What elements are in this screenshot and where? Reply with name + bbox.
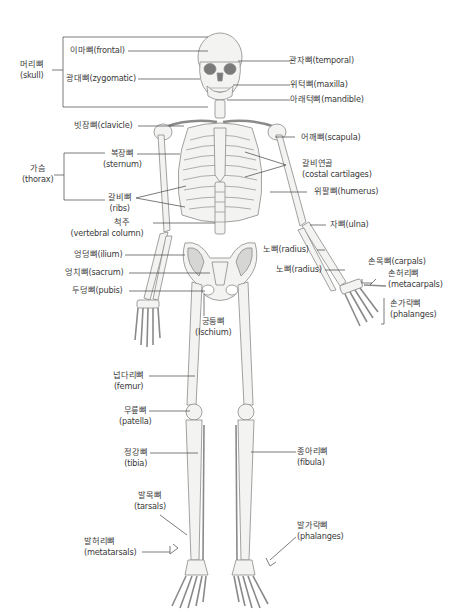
label-patella: 무릎뼈 (patella) <box>119 405 152 427</box>
label-tarsals: 발목뼈 (tarsals) <box>134 490 166 512</box>
label-ko: 손가락뼈 <box>390 298 437 309</box>
label-en: (Ischium) <box>195 327 231 338</box>
label-sacrum: 엉치뼈(sacrum) <box>65 267 124 278</box>
label-en: (phalanges) <box>390 309 437 320</box>
label-en: (femur) <box>113 381 144 392</box>
label-costal-cartilages: 갈비연골 (costal cartilages) <box>302 158 372 180</box>
label-ko: 궁둥뼈 <box>195 316 231 327</box>
label-en: (metatarsals) <box>84 547 136 558</box>
label-femur: 넙다리뼈 (femur) <box>113 370 144 392</box>
label-en: (tarsals) <box>134 501 166 512</box>
label-en: (ribs) <box>108 203 131 214</box>
label-ischium: 궁둥뼈 (Ischium) <box>195 316 231 338</box>
label-ulna: 자뼈(ulna) <box>330 219 368 230</box>
label-humerus: 위팔뼈(humerus) <box>314 186 378 197</box>
label-ko: 넙다리뼈 <box>113 370 144 381</box>
label-ko: 발허리뼈 <box>84 536 136 547</box>
label-ko: 정강뼈 <box>124 447 147 458</box>
label-ilium: 엉덩뼈(ilium) <box>74 249 122 260</box>
label-scapula: 어깨뼈(scapula) <box>301 132 360 143</box>
label-en: (thorax) <box>22 174 53 185</box>
label-en: (patella) <box>119 416 152 427</box>
label-clavicle: 빗장뼈(clavicle) <box>74 120 133 131</box>
label-sternum: 복장뼈 (sternum) <box>103 148 142 170</box>
label-ko: 척주 <box>62 217 152 228</box>
label-ko: 갈비연골 <box>302 158 372 169</box>
label-ko: 머리뼈 <box>20 59 43 70</box>
label-maxilla: 위턱뼈(maxilla) <box>290 79 348 90</box>
label-phalanges-foot: 발가락뼈 (phalanges) <box>297 520 344 542</box>
label-vertebral-column: 척주 (vertebral column) <box>62 217 152 239</box>
label-ko: 가슴 <box>22 163 53 174</box>
label-en: (tibia) <box>124 458 147 469</box>
label-ribs: 갈비뼈 (ribs) <box>108 192 131 214</box>
label-pubis: 두덩뼈(pubis) <box>72 285 123 296</box>
label-radius-1: 노뼈(radius) <box>263 244 309 255</box>
label-frontal: 이마뼈(frontal) <box>70 45 125 56</box>
label-ko: 발가락뼈 <box>297 520 344 531</box>
label-ko: 종아리뼈 <box>297 446 328 457</box>
label-en: (vertebral column) <box>62 228 152 239</box>
label-radius-2: 노뼈(radius) <box>276 264 322 275</box>
label-en: (skull) <box>20 70 43 81</box>
group-label-thorax: 가슴 (thorax) <box>22 163 53 185</box>
label-en: (metacarpals) <box>388 279 443 290</box>
label-ko: 복장뼈 <box>103 148 142 159</box>
label-mandible: 아래턱뼈(mandible) <box>290 94 364 105</box>
group-label-skull: 머리뼈 (skull) <box>20 59 43 81</box>
label-carpals: 손목뼈(carpals) <box>368 256 426 267</box>
label-tibia: 정강뼈 (tibia) <box>124 447 147 469</box>
label-en: (sternum) <box>103 159 142 170</box>
label-metacarpals: 손허리뼈 (metacarpals) <box>388 268 443 290</box>
label-ko: 발목뼈 <box>134 490 166 501</box>
label-zygomatic: 광대뼈(zygomatic) <box>66 73 136 84</box>
label-ko: 무릎뼈 <box>119 405 152 416</box>
label-ko: 손허리뼈 <box>388 268 443 279</box>
label-fibula: 종아리뼈 (fibula) <box>297 446 328 468</box>
label-ko: 갈비뼈 <box>108 192 131 203</box>
label-en: (costal cartilages) <box>302 169 372 180</box>
label-metatarsals: 발허리뼈 (metatarsals) <box>84 536 136 558</box>
label-phalanges-hand: 손가락뼈 (phalanges) <box>390 298 437 320</box>
label-en: (phalanges) <box>297 531 344 542</box>
label-en: (fibula) <box>297 457 328 468</box>
label-temporal: 관자뼈(temporal) <box>289 55 354 66</box>
skull <box>198 33 242 100</box>
